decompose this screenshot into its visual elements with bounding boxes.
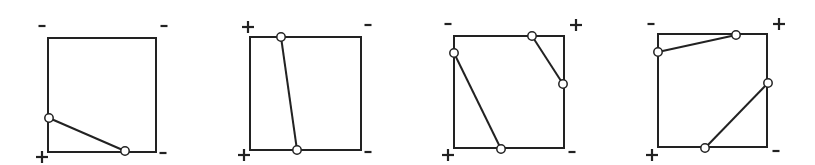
- intersection-point: [121, 147, 129, 155]
- plus-sign-bottom-left: [646, 149, 658, 161]
- intersection-point: [701, 144, 709, 152]
- plus-sign-bottom-left: [442, 149, 454, 161]
- contour-segment: [281, 37, 297, 150]
- intersection-point: [654, 48, 662, 56]
- contour-segment: [454, 53, 501, 149]
- contour-segment: [49, 118, 125, 151]
- intersection-point: [450, 49, 458, 57]
- intersection-point: [45, 114, 53, 122]
- intersection-point: [732, 31, 740, 39]
- panel-1: [36, 26, 168, 163]
- plus-sign-top-right: [570, 19, 582, 31]
- cell-square: [454, 36, 564, 148]
- plus-sign-bottom-left: [238, 149, 250, 161]
- contour-segment: [532, 36, 563, 84]
- intersection-point: [559, 80, 567, 88]
- intersection-point: [497, 145, 505, 153]
- intersection-point: [293, 146, 301, 154]
- intersection-point: [277, 33, 285, 41]
- marching-squares-diagram: [0, 0, 815, 165]
- plus-sign-top-right: [773, 18, 785, 30]
- panel-3: [442, 19, 582, 161]
- cell-square: [250, 37, 361, 150]
- panel-4: [646, 18, 785, 161]
- cell-square: [48, 38, 156, 152]
- panel-2: [238, 21, 372, 161]
- plus-sign-bottom-left: [36, 151, 48, 163]
- intersection-point: [764, 79, 772, 87]
- contour-segment: [658, 35, 736, 52]
- contour-segment: [705, 83, 768, 148]
- intersection-point: [528, 32, 536, 40]
- plus-sign-top-left: [242, 21, 254, 33]
- cell-square: [658, 34, 767, 147]
